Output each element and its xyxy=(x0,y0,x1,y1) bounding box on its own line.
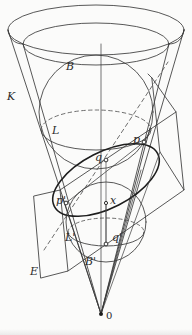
cone-generator-right xyxy=(101,30,184,314)
label-lower-tangency-circle-L-prime: L' xyxy=(65,232,75,243)
point-marker-q-prime xyxy=(104,242,108,246)
cone-top-rim-inner xyxy=(23,23,169,65)
label-lower-sphere-B-prime: B' xyxy=(85,256,96,267)
label-point-q-prime: q' xyxy=(112,232,122,243)
cone-top-rim-outer xyxy=(8,5,184,55)
point-marker-q xyxy=(104,158,108,162)
cutting-plane-E-right-panel xyxy=(152,78,184,190)
label-cutting-plane-E: E xyxy=(30,266,38,277)
label-cone-generator-K: K xyxy=(7,91,15,102)
point-marker-p xyxy=(142,140,146,144)
cutting-plane-E-right-top-edge xyxy=(148,74,152,78)
label-apex-0: 0 xyxy=(106,311,112,321)
label-cone-surface-B: B xyxy=(66,61,74,72)
ruling-fan-right-1 xyxy=(101,152,160,314)
point-marker-x xyxy=(104,201,107,204)
label-point-q: q xyxy=(95,152,102,163)
figure-canvas xyxy=(0,0,192,335)
point-marker-apex-0 xyxy=(99,312,103,316)
ruling-through-p-x-q-prime xyxy=(101,128,150,314)
label-upper-tangency-circle-L: L xyxy=(52,125,59,136)
label-point-p-prime: p' xyxy=(56,195,66,206)
label-point-p: p xyxy=(133,134,140,145)
cone-generator-right-inner xyxy=(101,44,169,314)
dandelin-spheres-figure: B K L p q p' x L' q' E B' 0 xyxy=(0,0,192,335)
label-point-x: x xyxy=(110,195,116,206)
cutting-plane-E-upper-edge xyxy=(60,112,176,190)
